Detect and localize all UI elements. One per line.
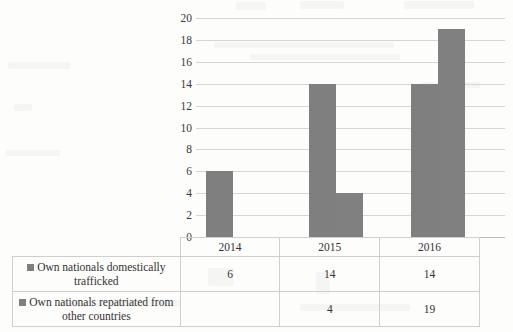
bar-2014-domestically-trafficked	[206, 171, 233, 237]
y-tick-label: 14	[156, 79, 192, 91]
legend-label-line2: trafficked	[74, 275, 118, 287]
y-tick-label: 2	[156, 210, 192, 222]
cell-repatriated-2014	[180, 292, 280, 327]
table-header-2015: 2015	[280, 238, 380, 257]
bar-2015-repatriated-from-other-countries	[336, 193, 363, 237]
y-tick-label: 16	[156, 57, 192, 69]
y-axis: 20 18 16 14 12 10 8 6 4 2 0	[152, 18, 192, 237]
plot-area	[196, 18, 505, 237]
scan-artifact	[300, 1, 344, 9]
y-tick-label: 18	[156, 35, 192, 47]
scan-artifact	[6, 150, 60, 156]
table-header-legend-blank	[13, 238, 181, 257]
data-table: 2014 2015 2016 Own nationals domesticall…	[12, 237, 480, 327]
y-tick-label: 6	[156, 166, 192, 178]
y-tick-label: 4	[156, 188, 192, 200]
scan-artifact	[404, 1, 474, 9]
scan-artifact	[8, 62, 70, 69]
cell-domestically-trafficked-2014: 6	[180, 257, 280, 292]
table-header-2014: 2014	[180, 238, 280, 257]
legend-item-domestically-trafficked: Own nationals domesticallytrafficked	[13, 257, 181, 292]
scan-artifact	[236, 2, 266, 10]
legend-swatch-icon	[19, 299, 26, 306]
y-tick-label: 12	[156, 101, 192, 113]
chart-page: 20 18 16 14 12 10 8 6 4 2 0	[0, 0, 513, 332]
y-tick-label: 20	[156, 13, 192, 25]
bar-2016-domestically-trafficked	[411, 84, 438, 237]
cell-repatriated-2015: 4	[280, 292, 380, 327]
y-tick-label: 8	[156, 144, 192, 156]
cell-repatriated-2016: 19	[380, 292, 480, 327]
cell-domestically-trafficked-2016: 14	[380, 257, 480, 292]
table-row: Own nationals repatriated fromother coun…	[13, 292, 480, 327]
bar-2015-domestically-trafficked	[309, 84, 336, 237]
table-header-2016: 2016	[380, 238, 480, 257]
table-row: Own nationals domesticallytrafficked 6 1…	[13, 257, 480, 292]
legend-label-line2: other countries	[62, 310, 131, 322]
cell-domestically-trafficked-2015: 14	[280, 257, 380, 292]
table-header-row: 2014 2015 2016	[13, 238, 480, 257]
y-tick-label: 10	[156, 123, 192, 135]
gridline	[196, 18, 505, 19]
legend-swatch-icon	[27, 264, 34, 271]
legend-label-line1: Own nationals domestically	[37, 261, 165, 273]
legend-label-line1: Own nationals repatriated from	[29, 296, 173, 308]
bar-2016-repatriated-from-other-countries	[438, 29, 465, 237]
scan-artifact	[14, 104, 32, 111]
legend-item-repatriated-from-other-countries: Own nationals repatriated fromother coun…	[13, 292, 181, 327]
